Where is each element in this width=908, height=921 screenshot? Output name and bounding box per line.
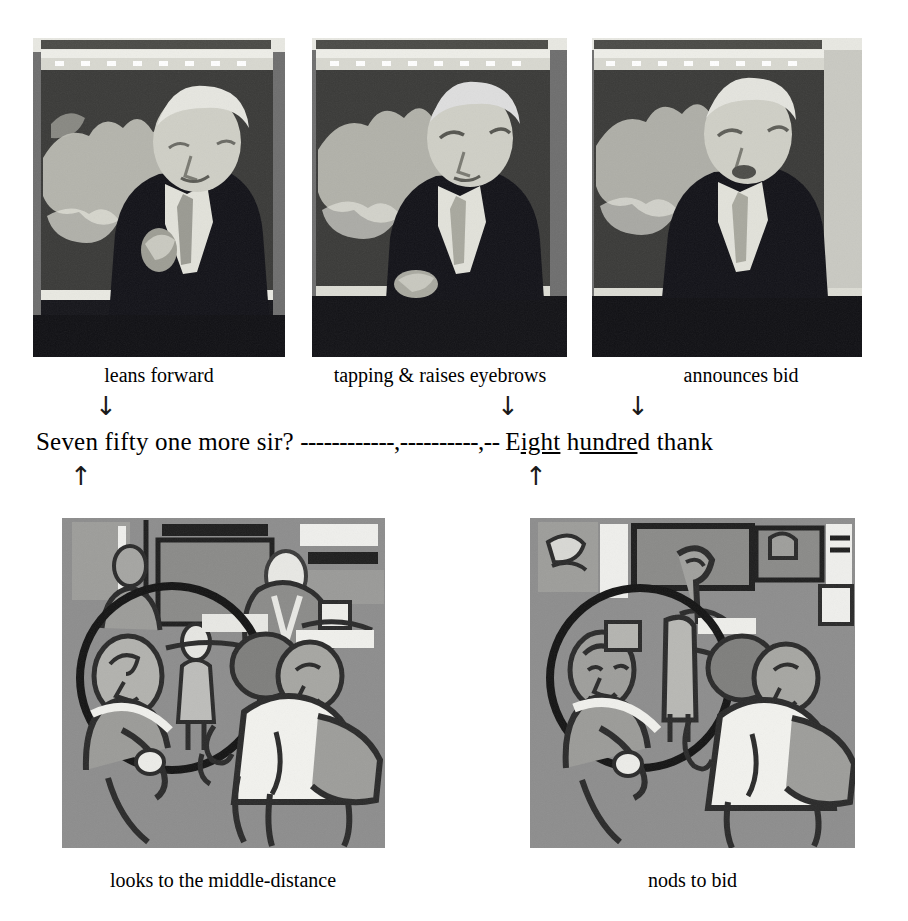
caption-leans-forward: leans forward xyxy=(33,363,285,387)
transcript-seg-4: h xyxy=(560,428,579,455)
transcript-line: Seven fifty one more sir? ------------,-… xyxy=(36,427,713,457)
arrow-down-tapping: ↓ xyxy=(497,393,519,419)
drawing-frame-5-image xyxy=(530,518,855,848)
transcript-seg-2: E xyxy=(505,428,520,455)
transcript-seg-0: Seven fifty one more sir? xyxy=(36,428,300,455)
photo-frame-1-image xyxy=(33,38,285,357)
caption-announces-bid: announces bid xyxy=(620,363,862,387)
drawing-frame-5 xyxy=(530,518,855,848)
transcript-seg-5: undre xyxy=(580,428,638,455)
photo-frame-2 xyxy=(312,38,567,357)
drawing-frame-4-image xyxy=(62,518,385,848)
transcript-seg-1: ------------,----------,-- xyxy=(300,428,505,455)
caption-tapping-raises-eyebrows: tapping & raises eyebrows xyxy=(290,363,590,387)
arrow-down-leans-forward: ↓ xyxy=(95,393,117,419)
photo-frame-3 xyxy=(592,38,862,357)
photo-frame-3-image xyxy=(592,38,862,357)
arrow-down-announces-bid: ↓ xyxy=(627,393,649,419)
arrow-up-nods-to-bid: ↑ xyxy=(525,463,547,489)
caption-looks-to-the-middle-distance: looks to the middle-distance xyxy=(40,868,406,892)
drawing-frame-4 xyxy=(62,518,385,848)
photo-frame-2-image xyxy=(312,38,567,357)
figure-page: leans forward tapping & raises eyebrows … xyxy=(0,0,908,921)
arrow-up-looks-middle-distance: ↑ xyxy=(70,463,92,489)
photo-frame-1 xyxy=(33,38,285,357)
transcript-seg-3: ight xyxy=(521,428,561,455)
transcript-seg-6: d thank xyxy=(637,428,713,455)
caption-nods-to-bid: nods to bid xyxy=(530,868,855,892)
